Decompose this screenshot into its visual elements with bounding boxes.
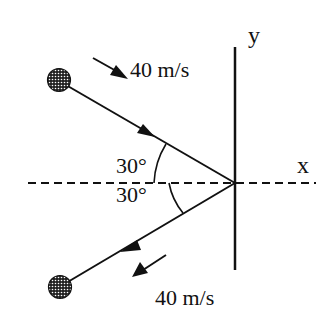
collision-diagram: 40 m/s 40 m/s 30° 30° x y bbox=[0, 0, 332, 326]
x-axis-label: x bbox=[297, 152, 309, 178]
outgoing-arrowhead-icon bbox=[120, 240, 141, 252]
ball-incoming bbox=[48, 69, 71, 92]
incoming-arrowhead-icon bbox=[137, 124, 155, 137]
y-axis-label: y bbox=[248, 22, 260, 48]
speed-label-outgoing: 40 m/s bbox=[155, 285, 214, 310]
angle-arc-incoming bbox=[154, 144, 166, 183]
outgoing-velocity-arrow bbox=[143, 255, 166, 270]
incoming-velocity-arrowhead-icon bbox=[110, 65, 128, 79]
outgoing-path bbox=[66, 183, 235, 283]
angle-arc-outgoing bbox=[169, 183, 183, 213]
speed-label-incoming: 40 m/s bbox=[130, 57, 189, 82]
angle-label-incoming: 30° bbox=[116, 153, 147, 178]
ball-outgoing bbox=[49, 276, 72, 299]
angle-label-outgoing: 30° bbox=[116, 182, 147, 207]
outgoing-velocity-arrowhead-icon bbox=[132, 262, 148, 277]
